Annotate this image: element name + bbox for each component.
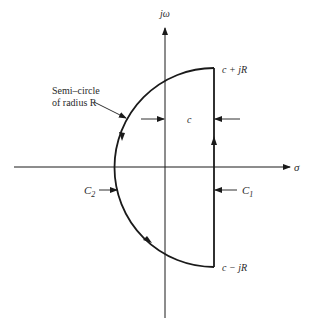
contour-diagram: jω σ c + jR c − jR c C2 C1 Semi–circle o… xyxy=(0,0,309,325)
real-axis-label: σ xyxy=(294,161,300,173)
c2-label: C2 xyxy=(84,184,95,199)
c1-label: C1 xyxy=(242,184,253,199)
top-point-label: c + jR xyxy=(222,64,247,75)
bottom-point-label: c − jR xyxy=(222,262,247,273)
semicircle-pointer-arrow xyxy=(94,102,126,118)
semicircle-annotation-line1: Semi–circle xyxy=(52,85,100,96)
c1-direction-arrow-icon xyxy=(211,136,217,145)
imaginary-axis-label: jω xyxy=(158,8,170,19)
c-dimension-label: c xyxy=(187,114,192,125)
semicircle-annotation-line2: of radius R xyxy=(52,97,97,108)
